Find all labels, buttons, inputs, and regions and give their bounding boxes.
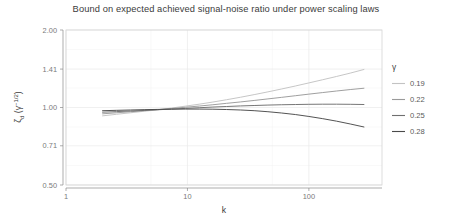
chart-figure: Bound on expected achieved signal-noise … (0, 0, 452, 219)
chart-plot-area: 110100 0.500.711.001.412.00 γ0.190.220.2… (0, 0, 452, 219)
x-axis-title: k (222, 205, 227, 215)
legend-title: γ (392, 62, 397, 72)
chart-legend: γ0.190.220.250.28 (392, 62, 425, 136)
legend-label-0.25[interactable]: 0.25 (410, 111, 425, 120)
y-tick-label: 2.00 (43, 26, 57, 35)
x-tick-label: 100 (303, 192, 315, 201)
x-axis: 110100 (64, 188, 382, 201)
y-tick-label: 1.00 (43, 103, 57, 112)
y-tick-label: 0.50 (43, 181, 57, 190)
legend-label-0.28[interactable]: 0.28 (410, 127, 425, 136)
x-tick-label: 1 (64, 192, 68, 201)
legend-label-0.22[interactable]: 0.22 (410, 95, 425, 104)
legend-label-0.19[interactable]: 0.19 (410, 79, 425, 88)
x-tick-label: 10 (183, 192, 191, 201)
y-tick-label: 1.41 (43, 65, 57, 74)
y-tick-label: 0.71 (43, 141, 57, 150)
series-lines (103, 69, 364, 127)
y-axis-title-text: ζd (γ−1/2) (13, 91, 25, 123)
series-line-0.25 (103, 104, 364, 112)
y-axis: 0.500.711.001.412.00 (43, 26, 63, 190)
grid-major-lines (66, 30, 382, 185)
y-axis-title: ζd (γ−1/2) (13, 91, 25, 123)
